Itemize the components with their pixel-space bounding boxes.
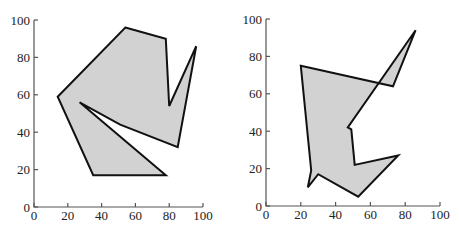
y-tick-label: 0 [24, 200, 31, 215]
shaded-polygon [58, 28, 197, 176]
y-tick-label: 100 [11, 13, 31, 28]
shaded-polygon [301, 30, 416, 197]
chart-canvas: 0204060801000204060801000204060801000204… [0, 0, 459, 235]
y-tick-label: 60 [249, 86, 262, 101]
y-tick-label: 20 [17, 162, 30, 177]
y-tick-label: 40 [249, 124, 262, 139]
x-tick-label: 60 [364, 207, 377, 222]
y-tick-label: 40 [17, 125, 30, 140]
x-tick-label: 80 [399, 207, 412, 222]
y-tick-label: 100 [243, 12, 263, 27]
y-tick-label: 60 [17, 87, 30, 102]
x-tick-label: 100 [430, 207, 450, 222]
y-tick-label: 80 [249, 49, 262, 64]
y-tick-label: 80 [17, 50, 30, 65]
polygon-chart-2: 020406080100020406080100 [243, 12, 450, 223]
x-tick-label: 40 [95, 208, 108, 223]
x-tick-label: 20 [294, 207, 307, 222]
y-tick-label: 20 [249, 161, 262, 176]
polygon-chart-1: 020406080100020406080100 [11, 13, 213, 224]
y-tick-label: 0 [256, 199, 263, 214]
x-tick-label: 0 [31, 208, 38, 223]
x-tick-label: 20 [61, 208, 74, 223]
x-tick-label: 60 [129, 208, 142, 223]
x-tick-label: 0 [263, 207, 270, 222]
x-tick-label: 100 [193, 208, 213, 223]
x-tick-label: 80 [163, 208, 176, 223]
x-tick-label: 40 [329, 207, 342, 222]
